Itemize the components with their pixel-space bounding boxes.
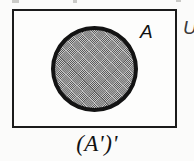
crop-bleed-mark <box>73 0 77 3</box>
crop-bleed-mark <box>176 0 181 2</box>
venn-diagram-figure: A U (A')' <box>0 0 194 161</box>
set-a-shaded-circle <box>51 26 138 112</box>
crop-bleed-mark <box>12 0 19 3</box>
set-a-label: A <box>140 22 153 41</box>
figure-caption: (A')' <box>0 131 194 157</box>
universal-set-label: U <box>183 18 194 37</box>
